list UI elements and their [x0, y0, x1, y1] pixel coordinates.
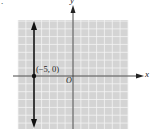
origin-label: O	[66, 77, 72, 85]
y-axis-arrow-icon	[71, 5, 76, 13]
x-axis-arrow-icon	[136, 74, 144, 79]
coordinate-plane	[0, 0, 155, 129]
x-axis-label: x	[145, 70, 149, 79]
point-label: (−5, 0)	[36, 65, 59, 74]
y-axis-label: y	[70, 0, 74, 5]
point-neg5-0	[32, 74, 36, 78]
